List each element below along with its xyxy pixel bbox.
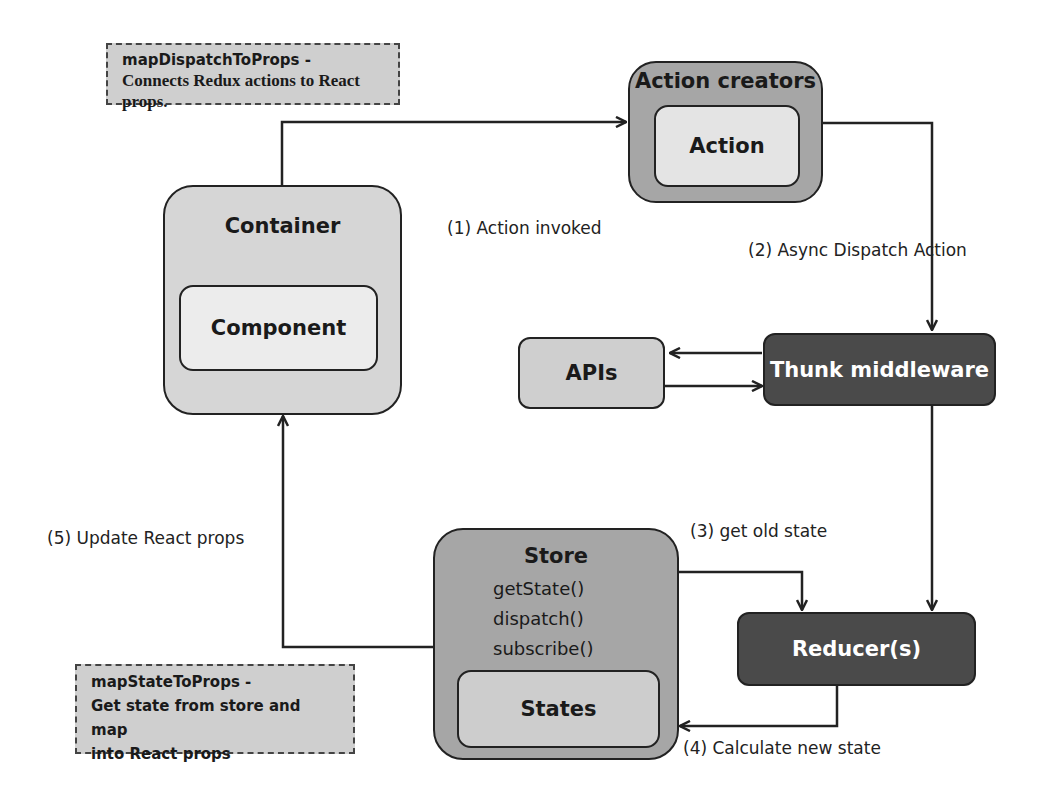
store-method-dispatch: dispatch() [493,604,593,634]
node-container: Container Component [163,185,402,415]
note-state-title: mapStateToProps - [91,670,339,694]
label-step-3: (3) get old state [690,521,827,541]
label-step-5: (5) Update React props [47,528,244,548]
arrow-store-to-container [283,416,433,647]
node-component: Component [179,285,378,371]
node-apis: APIs [518,337,665,409]
store-label: Store [435,544,677,568]
container-label: Container [165,214,400,238]
reducers-label: Reducer(s) [792,637,921,661]
component-label: Component [211,316,346,340]
arrow-action-creators-to-thunk [822,123,932,330]
note-map-state-to-props: mapStateToProps - Get state from store a… [75,664,355,754]
thunk-label: Thunk middleware [770,358,989,382]
note-map-dispatch-to-props: mapDispatchToProps - Connects Redux acti… [106,43,400,105]
node-store: Store getState() dispatch() subscribe() … [433,528,679,760]
note-state-body-2: into React props [91,742,339,766]
store-method-getstate: getState() [493,574,593,604]
label-step-2: (2) Async Dispatch Action [748,240,967,260]
note-state-body-1: Get state from store and map [91,694,339,742]
arrow-container-to-action-creators [282,122,626,185]
states-label: States [520,697,596,721]
arrow-store-to-reducer [678,572,802,610]
node-states: States [457,670,660,748]
node-action-creators: Action creators Action [628,61,823,203]
label-step-4: (4) Calculate new state [683,738,881,758]
node-action: Action [654,105,800,187]
apis-label: APIs [566,361,618,385]
action-creators-label: Action creators [630,69,821,93]
note-dispatch-body: Connects Redux actions to React props. [122,70,384,113]
node-reducers: Reducer(s) [737,612,976,686]
store-method-subscribe: subscribe() [493,634,593,664]
arrow-reducer-to-store [680,686,837,726]
action-label: Action [689,134,764,158]
note-dispatch-title: mapDispatchToProps - [122,51,384,70]
label-step-1: (1) Action invoked [447,218,602,238]
node-thunk-middleware: Thunk middleware [763,333,996,406]
store-methods: getState() dispatch() subscribe() [493,574,593,664]
